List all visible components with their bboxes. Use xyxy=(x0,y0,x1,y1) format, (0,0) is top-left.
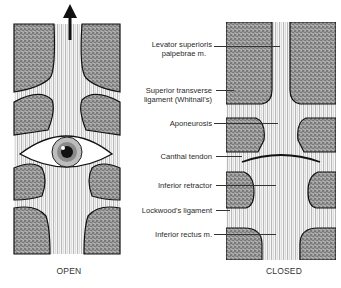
label-levator: Levator superioris palpebrae m. xyxy=(152,40,212,58)
label-whitnall: Superior transverse ligament (Whitnall's… xyxy=(144,86,212,104)
label-canthal: Canthal tendon xyxy=(160,152,212,161)
open-eyelid-diagram xyxy=(12,0,122,262)
leader-levator xyxy=(214,46,280,47)
label-aponeurosis: Aponeurosis xyxy=(170,119,212,128)
caption-open: OPEN xyxy=(44,266,94,276)
leader-inf-rectus xyxy=(214,234,276,235)
leader-lockwood xyxy=(216,210,230,211)
leader-inf-retractor xyxy=(216,185,276,186)
label-inf-retractor: Inferior retractor xyxy=(158,181,212,190)
leader-whitnall xyxy=(216,90,234,91)
leader-aponeurosis xyxy=(214,123,278,124)
caption-closed: CLOSED xyxy=(256,266,312,276)
leader-canthal xyxy=(216,156,242,157)
label-inf-rectus: Inferior rectus m. xyxy=(155,230,212,239)
closed-eyelid-diagram xyxy=(226,22,336,260)
label-lockwood: Lockwood's ligament xyxy=(142,206,212,215)
